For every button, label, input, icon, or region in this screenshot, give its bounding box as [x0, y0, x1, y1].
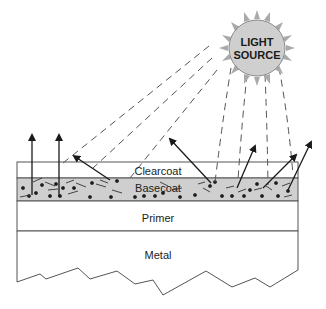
- light-source: LIGHT SOURCE: [219, 10, 295, 86]
- metal-layer: [17, 231, 298, 295]
- metal-label: Metal: [145, 249, 172, 261]
- basecoat-label: Basecoat: [135, 182, 181, 194]
- light-source-label-line1: LIGHT: [241, 36, 274, 48]
- paint-layer-diagram: LIGHT SOURCE Clearcoat Basecoat Primer M…: [0, 0, 326, 309]
- clearcoat-label: Clearcoat: [134, 165, 181, 177]
- primer-label: Primer: [142, 212, 175, 224]
- sun-circle: [229, 20, 285, 76]
- light-source-label-line2: SOURCE: [233, 49, 280, 61]
